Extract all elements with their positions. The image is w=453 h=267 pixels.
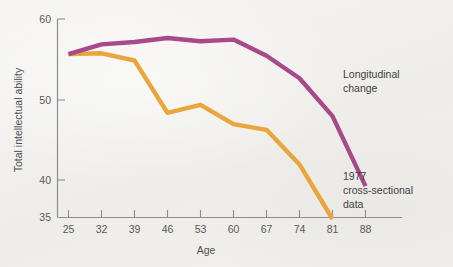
x-tick-label-60: 60 — [228, 223, 240, 235]
x-axis-ticks — [69, 210, 366, 217]
x-tick-label-81: 81 — [327, 223, 339, 235]
x-tick-label-67: 67 — [261, 223, 273, 235]
x-tick-label-46: 46 — [162, 223, 174, 235]
y-axis-title: Total intellectual ability — [12, 67, 24, 172]
annotation-cross-sectional: 1977 cross-sectional data — [343, 170, 413, 210]
annotation-longitudinal-line2: change — [343, 82, 378, 94]
x-tick-label-53: 53 — [195, 223, 207, 235]
chart-figure: 60 50 40 35 25 32 39 46 53 60 67 — [0, 0, 453, 267]
y-tick-label-40: 40 — [39, 174, 51, 186]
y-axis-tick-labels: 60 50 40 35 — [39, 13, 51, 223]
x-axis-title: Age — [197, 244, 216, 256]
series-line-cross-sectional — [69, 53, 333, 219]
x-tick-label-74: 74 — [294, 223, 306, 235]
line-chart: 60 50 40 35 25 32 39 46 53 60 67 — [0, 0, 453, 267]
annotation-cross-sectional-line2: cross-sectional — [343, 184, 413, 196]
annotation-cross-sectional-line1: 1977 — [343, 170, 367, 182]
x-tick-label-32: 32 — [96, 223, 108, 235]
y-tick-label-35: 35 — [39, 211, 51, 223]
y-tick-label-60: 60 — [39, 13, 51, 25]
y-tick-label-50: 50 — [39, 94, 51, 106]
x-tick-label-39: 39 — [129, 223, 141, 235]
annotation-longitudinal-line1: Longitudinal — [343, 68, 400, 80]
annotation-longitudinal: Longitudinal change — [343, 68, 400, 94]
y-axis-ticks — [58, 19, 66, 180]
x-tick-label-88: 88 — [360, 223, 372, 235]
annotation-cross-sectional-line3: data — [343, 198, 364, 210]
x-tick-label-25: 25 — [63, 223, 75, 235]
x-axis-tick-labels: 25 32 39 46 53 60 67 74 81 88 — [63, 223, 372, 235]
